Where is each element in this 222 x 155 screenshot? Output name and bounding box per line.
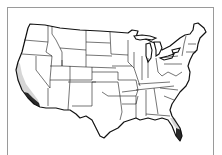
- great-lakes: [134, 35, 180, 62]
- us-map: [0, 0, 222, 155]
- state-borders: [22, 26, 196, 120]
- florida-shade-light: [170, 118, 181, 130]
